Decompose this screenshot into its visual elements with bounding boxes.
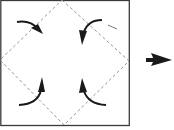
- right-arrow-icon: [146, 53, 172, 66]
- paper-square: [1, 1, 130, 126]
- diagram-canvas: [0, 0, 174, 130]
